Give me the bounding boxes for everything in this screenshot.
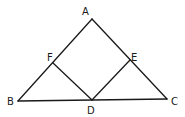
label-f: F (47, 52, 53, 63)
label-a: A (82, 6, 89, 17)
label-d: D (87, 105, 95, 116)
segment-de (92, 60, 130, 100)
label-e: E (131, 52, 137, 63)
segment-ac (92, 19, 167, 99)
segment-fd (53, 63, 92, 100)
triangle-diagram: A B C D E F (0, 0, 185, 117)
label-c: C (171, 96, 178, 107)
label-b: B (7, 96, 14, 107)
